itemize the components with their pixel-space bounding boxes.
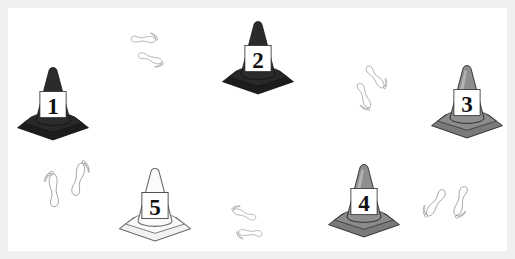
footprint-toe-3 (461, 214, 463, 216)
footprint-toe-3 (235, 206, 237, 208)
footprints-bottom-middle (213, 192, 295, 244)
footprint-sole (365, 63, 386, 90)
footprints-top-left (98, 28, 182, 82)
footprint-sole (354, 82, 375, 109)
scene-canvas: 12345 (8, 8, 507, 251)
footprint-toe-2 (365, 108, 368, 111)
footprint-toe-5 (151, 33, 152, 34)
traffic-cone-2[interactable]: 2 (219, 20, 297, 94)
footprint-toe-4 (87, 168, 89, 170)
footprints-top-right (318, 56, 402, 114)
footprint-right (137, 52, 165, 68)
footprint-toe-2 (385, 84, 388, 87)
footprint-toe-2 (458, 215, 461, 218)
footprint-toe-2 (233, 207, 235, 209)
cone-label-number: 5 (149, 194, 161, 220)
footprint-toe-4 (237, 206, 238, 208)
footprint-toe-4 (45, 178, 47, 180)
traffic-cone-1[interactable]: 1 (14, 66, 92, 140)
footprint-toe-4 (152, 33, 153, 35)
footprint-sole (47, 174, 61, 208)
cone-label-number: 1 (47, 93, 59, 119)
footprint-right (420, 185, 447, 220)
footprint-toe-4 (463, 213, 465, 215)
footprint-toe-2 (160, 64, 162, 66)
footprint-toe-5 (385, 78, 387, 80)
traffic-cone-5[interactable]: 5 (116, 167, 194, 241)
footprint-toe-2 (85, 163, 88, 165)
footprint-toe-1 (455, 215, 459, 219)
footprint-toe-3 (385, 82, 387, 84)
footprint-toe-3 (158, 65, 160, 67)
footprint-sole (449, 185, 471, 216)
footprint-right (350, 82, 375, 113)
footprint-toe-4 (423, 207, 425, 209)
traffic-cone-3[interactable]: 3 (428, 64, 506, 138)
footprint-left (131, 29, 159, 45)
footprint-toe-5 (155, 66, 156, 67)
footprint-sole (71, 162, 85, 196)
footprint-toe-4 (156, 66, 157, 68)
footprint-left (42, 171, 61, 207)
footprint-toe-2 (155, 36, 157, 38)
footprint-left (448, 185, 475, 220)
footprint-toe-5 (360, 105, 362, 107)
footprint-toe-1 (236, 232, 239, 235)
footprint-toe-3 (153, 34, 155, 36)
footprint-right (71, 160, 90, 196)
footprint-toe-5 (44, 180, 46, 182)
cone-label-number: 3 (461, 91, 473, 117)
footprints-bottom-left (38, 157, 112, 229)
footprint-toe-4 (361, 106, 363, 108)
footprint-toe-1 (50, 171, 53, 174)
footprint-toe-5 (239, 206, 240, 207)
footprint-toe-4 (240, 237, 241, 239)
footprint-toe-3 (86, 166, 88, 168)
footprint-toe-2 (47, 173, 50, 175)
traffic-cone-4[interactable]: 4 (325, 163, 403, 237)
footprint-toe-3 (239, 236, 241, 238)
footprint-sole (232, 208, 257, 221)
scene-frame: 12345 (0, 0, 515, 259)
footprint-sole (131, 33, 157, 45)
footprint-toe-3 (423, 210, 425, 212)
footprint-toe-5 (88, 171, 90, 173)
footprint-sole (137, 52, 163, 64)
footprint-toe-5 (242, 238, 243, 239)
footprint-toe-3 (46, 175, 48, 177)
footprints-bottom-right (410, 152, 476, 232)
footprint-left (365, 61, 390, 92)
footprint-toe-1 (155, 37, 158, 40)
footprint-left (235, 226, 262, 243)
footprint-right (230, 204, 257, 221)
footprint-toe-2 (237, 234, 239, 236)
footprint-toe-1 (367, 108, 370, 111)
cone-label-number: 2 (252, 47, 264, 73)
footprint-toe-1 (82, 161, 85, 164)
footprint-toe-5 (423, 205, 425, 207)
footprint-toe-5 (464, 211, 466, 213)
footprint-sole (425, 187, 447, 218)
cone-label-number: 4 (358, 190, 370, 216)
footprint-toe-4 (385, 80, 387, 82)
footprint-toe-3 (363, 107, 365, 109)
